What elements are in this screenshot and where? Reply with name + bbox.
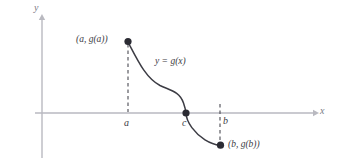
y-axis: [39, 14, 45, 158]
point-label-a: (a, g(a)): [76, 35, 108, 45]
point-marker-c: [182, 109, 189, 116]
point-marker-a: [124, 38, 131, 45]
x-tick-label-a: a: [124, 118, 129, 128]
curve-equation-label: y = g(x): [155, 57, 186, 67]
point-marker-b: [217, 142, 224, 149]
x-axis-label: x: [320, 106, 324, 116]
y-axis-label: y: [34, 3, 38, 13]
point-label-b: (b, g(b)): [228, 140, 260, 150]
figure-graph-of-g: y x (a, g(a)) y = g(x) a c b (b, g(b)): [0, 0, 339, 168]
graph-canvas: [0, 0, 339, 168]
x-axis: [35, 110, 319, 116]
x-tick-label-c: c: [182, 118, 186, 128]
x-axis-arrowhead-icon: [313, 110, 319, 116]
y-axis-arrowhead-icon: [39, 14, 45, 20]
x-tick-label-b: b: [223, 116, 228, 126]
